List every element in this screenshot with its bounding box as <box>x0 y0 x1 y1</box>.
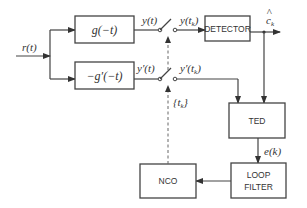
svg-text:FILTER: FILTER <box>244 182 273 192</box>
svg-text:NCO: NCO <box>159 176 178 186</box>
loop-filter-block: LOOP FILTER <box>231 163 286 198</box>
svg-text:g(−t): g(−t) <box>92 23 117 37</box>
svg-text:r(t): r(t) <box>22 41 37 54</box>
sampler-switch-1 <box>158 19 177 32</box>
timing-recovery-diagram: r(t) g(−t) −g′(−t) y(t) y′(t) y(tk) <box>0 0 307 208</box>
svg-text:y′(tk): y′(tk) <box>179 62 201 76</box>
sampled-mf-signal: y(tk) <box>177 14 205 30</box>
input-signal: r(t) <box>16 30 75 79</box>
matched-filter-block: g(−t) <box>75 16 134 43</box>
decision-output: ck ^ <box>250 6 280 103</box>
svg-text:y(tk): y(tk) <box>179 14 199 28</box>
ted-block: TED <box>229 103 285 138</box>
detector-block: DETECTOR <box>204 16 251 41</box>
error-signal: e(k) <box>258 138 281 163</box>
derivative-matched-filter-block: −g′(−t) <box>75 62 134 89</box>
svg-text:−g′(−t): −g′(−t) <box>86 69 122 83</box>
svg-text:DETECTOR: DETECTOR <box>204 24 251 34</box>
svg-text:y(t): y(t) <box>141 14 158 27</box>
svg-text:e(k): e(k) <box>264 145 281 158</box>
svg-text:y′(t): y′(t) <box>136 62 155 75</box>
nco-block: NCO <box>140 164 196 198</box>
svg-text:{tk}: {tk} <box>173 96 189 110</box>
svg-text:LOOP: LOOP <box>247 170 271 180</box>
filter-outputs: y(t) y′(t) <box>134 14 158 79</box>
svg-text:^: ^ <box>267 6 273 18</box>
sample-times-control: {tk} <box>165 36 189 164</box>
svg-text:TED: TED <box>249 116 266 126</box>
